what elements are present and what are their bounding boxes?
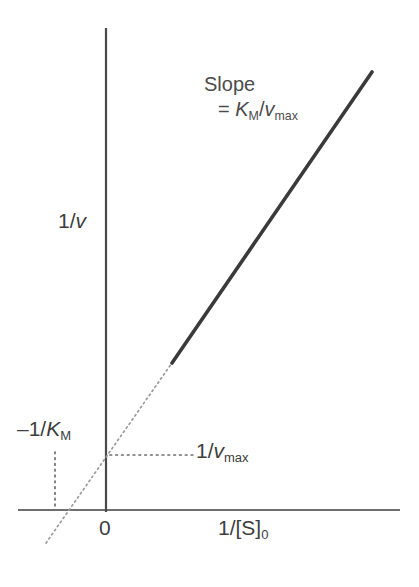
x-intercept-prefix: –1/	[17, 417, 46, 440]
y-axis-label: 1/v	[58, 210, 86, 232]
x-intercept-label: –1/KM	[17, 418, 71, 440]
y-intercept-variable: v	[214, 439, 225, 462]
origin-label: 0	[99, 517, 111, 539]
x-axis-label-prefix: 1/[S]	[218, 516, 261, 539]
lineweaver-burk-figure: 1/v 1/[S]0 0 –1/KM 1/vmax Slope= KM/vmax	[0, 0, 419, 587]
y-axis-label-prefix: 1/	[58, 209, 76, 232]
slope-km-variable: K	[235, 98, 248, 120]
x-intercept-subscript: M	[60, 428, 71, 443]
slope-annotation: Slope= KM/vmax	[204, 74, 298, 120]
slope-vmax-variable: v	[264, 98, 274, 120]
y-axis-label-variable: v	[76, 209, 87, 232]
x-axis-label-subscript: 0	[261, 527, 268, 542]
y-intercept-subscript: max	[224, 450, 249, 465]
y-intercept-prefix: 1/	[196, 439, 214, 462]
y-intercept-label: 1/vmax	[196, 440, 249, 462]
slope-km-subscript: M	[249, 109, 259, 123]
slope-annotation-line1: Slope	[204, 73, 255, 95]
x-axis-label: 1/[S]0	[218, 517, 268, 539]
x-intercept-variable: K	[46, 417, 60, 440]
slope-equals-sign: =	[218, 98, 235, 120]
slope-vmax-subscript: max	[274, 109, 297, 123]
slope-annotation-line2: = KM/vmax	[218, 99, 298, 120]
